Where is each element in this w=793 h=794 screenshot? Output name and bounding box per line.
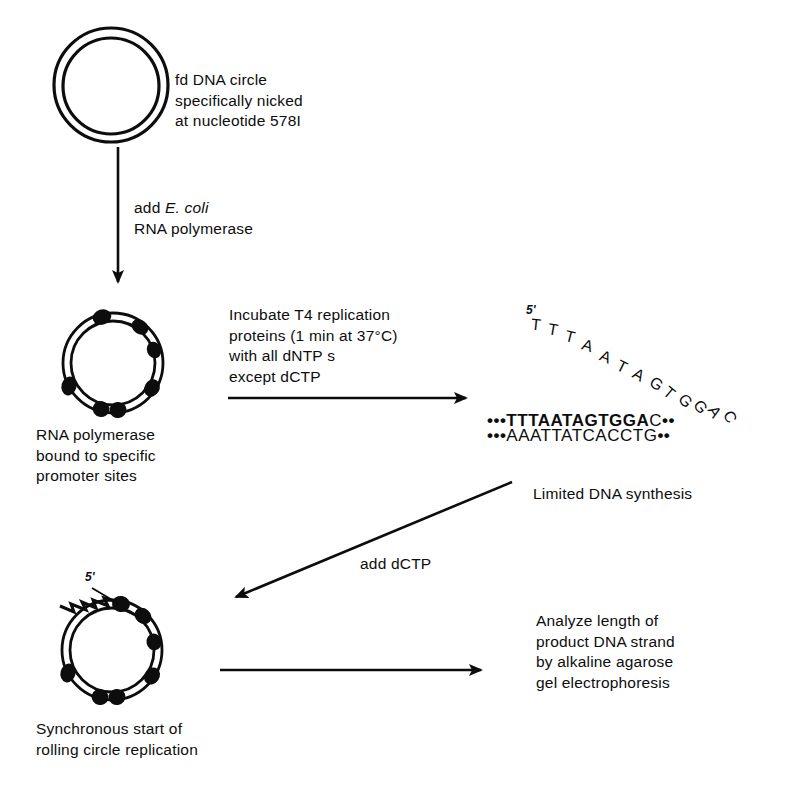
duplex-bottom-bases: AAATTATCACCT	[506, 426, 643, 445]
fd-circle-caption: fd DNA circle specifically nicked at nuc…	[175, 70, 303, 132]
limited-synthesis-caption: Limited DNA synthesis	[533, 484, 692, 505]
duplex-bottom-strand: •••AAATTATCACCTG••	[487, 426, 670, 446]
add-polymerase-label-pre: add	[134, 199, 165, 216]
nascent-strand-tail	[60, 598, 118, 612]
duplex-bottom-tail: G	[644, 426, 658, 445]
add-polymerase-label-post: RNA polymerase	[134, 220, 253, 237]
duplex-bottom-leading-dots: •••	[487, 426, 506, 445]
add-dctp-label: add dCTP	[360, 554, 431, 575]
bound-circle-caption: RNA polymerase bound to specific promote…	[36, 425, 156, 487]
add-polymerase-label: add E. coli RNA polymerase	[134, 198, 253, 239]
fd-dna-circle	[54, 28, 168, 142]
analyze-caption: Analyze length of product DNA strand by …	[536, 611, 675, 693]
arrow-add-dctp	[236, 482, 512, 597]
five-prime-label-circle: 5'	[85, 570, 95, 584]
rna-polymerase-bound-circle	[59, 307, 163, 419]
ecoli-italic: E. coli	[165, 199, 209, 216]
duplex-bottom-trailing-dots: ••	[657, 426, 670, 445]
bound-protein-blobs	[59, 307, 163, 419]
rolling-circle	[58, 588, 163, 707]
incubate-label: Incubate T4 replication proteins (1 min …	[229, 305, 398, 387]
figure-canvas: fd DNA circle specifically nicked at nuc…	[0, 0, 793, 794]
synchronous-caption: Synchronous start of rolling circle repl…	[36, 719, 198, 760]
